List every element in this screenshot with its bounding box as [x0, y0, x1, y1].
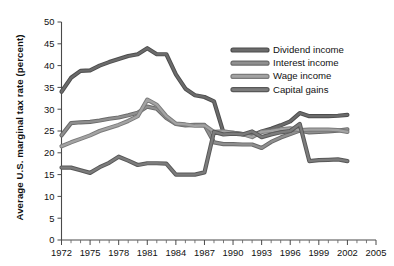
- x-tick-label: 1984: [165, 247, 186, 258]
- y-tick-label: 15: [44, 169, 54, 180]
- x-tick-label: 1990: [223, 247, 244, 258]
- legend-label: Wage income: [273, 70, 331, 81]
- x-tick-label: 2005: [366, 247, 387, 258]
- y-tick-label: 30: [44, 104, 54, 115]
- x-tick-label: 1996: [280, 247, 301, 258]
- chart-figure: Average U.S. marginal tax rate (percent)…: [0, 0, 394, 266]
- legend-item-interest-income[interactable]: Interest income: [233, 57, 339, 68]
- y-tick-label: 45: [44, 38, 54, 49]
- x-tick-label: 1981: [137, 247, 158, 258]
- y-tick-label: 25: [44, 125, 54, 136]
- legend-item-capital-gains[interactable]: Capital gains: [233, 84, 329, 95]
- y-tick-label: 40: [44, 60, 54, 71]
- legend-label: Dividend income: [273, 44, 344, 55]
- y-tick-label: 35: [44, 82, 54, 93]
- x-tick-label: 1975: [80, 247, 101, 258]
- x-tick-label: 1999: [308, 247, 329, 258]
- legend-item-wage-income[interactable]: Wage income: [233, 70, 331, 81]
- y-tick-label: 10: [44, 191, 54, 202]
- y-tick-label: 5: [49, 213, 54, 224]
- y-tick-label: 50: [44, 16, 54, 27]
- legend-label: Interest income: [273, 57, 339, 68]
- legend-label: Capital gains: [273, 84, 329, 95]
- x-tick-label: 1993: [251, 247, 272, 258]
- legend-item-dividend-income[interactable]: Dividend income: [233, 44, 344, 55]
- x-tick-label: 1978: [108, 247, 129, 258]
- y-tick-label: 0: [49, 234, 54, 245]
- y-tick-label: 20: [44, 147, 54, 158]
- x-tick-label: 2002: [337, 247, 358, 258]
- x-tick-label: 1972: [51, 247, 72, 258]
- x-tick-label: 1987: [194, 247, 215, 258]
- line-chart-plot: 0510152025303540455019721975197819811984…: [0, 0, 394, 266]
